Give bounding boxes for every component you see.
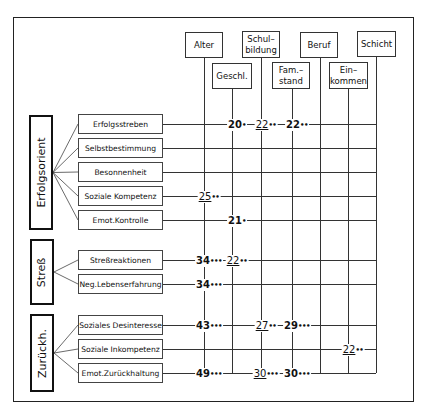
item-box: Erfolgsstreben: [78, 114, 163, 134]
group-label: Streß: [36, 257, 49, 286]
correlation-value: 22••: [342, 344, 365, 356]
row-line: [163, 220, 376, 221]
value-number: 22: [286, 119, 300, 130]
significance-stars: ••: [268, 121, 276, 129]
correlation-value: 29•••: [283, 320, 311, 332]
row-line: [163, 172, 376, 173]
item-box: Streßreaktionen: [78, 250, 163, 270]
correlation-value: 49•••: [195, 368, 223, 380]
column-line-einkommen: [348, 89, 349, 373]
item-box: Selbstbestimmung: [78, 138, 163, 158]
significance-stars: •••: [210, 257, 222, 265]
item-box: Neg.Lebenserfahrung: [78, 274, 163, 294]
significance-stars: •••: [298, 370, 310, 378]
significance-stars: •••: [210, 370, 222, 378]
item-box: Soziale Kompetenz: [78, 186, 163, 206]
significance-stars: •: [242, 217, 246, 225]
group-1: Streß: [30, 239, 54, 305]
column-line-geschl: [232, 89, 233, 373]
significance-stars: ••: [300, 121, 308, 129]
value-number: 43: [196, 320, 210, 331]
column-header-schicht: Schicht: [357, 31, 396, 57]
value-number: 21: [228, 215, 242, 226]
value-number: 34: [196, 279, 210, 290]
value-number: 27: [256, 320, 269, 331]
value-number: 34: [196, 255, 210, 266]
correlation-value: 25••: [198, 191, 221, 203]
significance-stars: ••: [355, 346, 363, 354]
value-number: 20: [228, 119, 242, 130]
column-header-schulbildung: Schul– bildung: [242, 31, 280, 58]
significance-stars: •••: [298, 322, 310, 330]
value-number: 49: [196, 368, 210, 379]
column-header-geschl: Geschl.: [212, 63, 252, 89]
item-box: Besonnenheit: [78, 162, 163, 182]
significance-stars: •••: [210, 281, 222, 289]
column-header-famstand: Fam.– stand: [272, 62, 310, 89]
item-box: Emot.Zurückhaltung: [78, 363, 163, 383]
value-number: 22: [343, 344, 356, 355]
row-line: [163, 148, 376, 149]
correlation-value: 20•: [227, 119, 247, 131]
correlation-value: 30•••: [253, 368, 280, 380]
group-0: Erfolgsorient: [29, 115, 53, 230]
significance-stars: ••: [211, 193, 219, 201]
significance-stars: •••: [266, 370, 278, 378]
column-header-beruf: Beruf: [300, 32, 338, 58]
group-label: Zurückh.: [36, 329, 49, 378]
value-number: 22: [256, 119, 269, 130]
value-number: 25: [199, 191, 212, 202]
correlation-value: 30•••: [283, 368, 311, 380]
correlation-value: 27••: [255, 320, 278, 332]
significance-stars: •: [242, 121, 246, 129]
correlation-value: 34•••: [195, 279, 223, 291]
correlation-value: 21•: [227, 215, 247, 227]
value-number: 30: [254, 368, 267, 379]
correlation-value: 22••: [226, 255, 249, 267]
correlation-value: 22••: [285, 119, 309, 131]
value-number: 22: [227, 255, 240, 266]
item-box: Emot.Kontrolle: [78, 210, 163, 230]
column-line-schicht: [376, 57, 377, 373]
item-box: Soziale Inkompetenz: [78, 339, 163, 359]
column-header-einkommen: Ein– kommen: [329, 62, 368, 89]
column-header-alter: Alter: [185, 32, 223, 58]
correlation-value: 22••: [255, 119, 278, 131]
significance-stars: •••: [210, 322, 222, 330]
significance-stars: ••: [268, 322, 276, 330]
correlation-value: 34•••: [195, 255, 223, 267]
row-line: [163, 196, 376, 197]
group-label: Erfolgsorient: [35, 137, 48, 207]
significance-stars: ••: [239, 257, 247, 265]
item-box: Soziales Desinteresse: [78, 315, 163, 335]
value-number: 30: [284, 368, 298, 379]
group-2: Zurückh.: [30, 314, 54, 392]
correlation-value: 43•••: [195, 320, 223, 332]
value-number: 29: [284, 320, 298, 331]
